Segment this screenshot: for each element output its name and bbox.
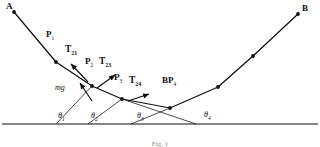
angle-label-theta3: θ3: [137, 112, 144, 122]
point-label-B: B: [302, 4, 308, 15]
point-dot-B: [296, 12, 300, 16]
figure-caption: Fig. 1: [0, 140, 320, 147]
point-label-P1: P1: [46, 30, 54, 41]
point-dot-P2: [90, 84, 94, 88]
vector-label-mg: mg: [55, 84, 65, 92]
angle-label-theta1: θ1: [58, 112, 65, 122]
point-label-P4: BP4: [162, 76, 176, 87]
vector-T24: [128, 94, 149, 101]
vector-label-T21: T21: [65, 45, 77, 56]
point-dot-P6: [251, 54, 255, 58]
point-dot-P5: [216, 85, 220, 89]
path-a-to-b: [14, 12, 298, 108]
point-dot-P4: [168, 106, 172, 110]
angle-label-theta4: θ4: [204, 111, 211, 121]
point-label-P2: P2: [85, 57, 93, 68]
vector-label-T24: T24: [129, 76, 141, 87]
figure-canvas: A P1 P2 P3 BP4 B T21 T23 T24 mg θ1 θ2 θ3…: [0, 0, 320, 147]
angle-ray-theta4: [122, 99, 196, 124]
angle-label-theta2: θ2: [91, 112, 98, 122]
figure-svg: [0, 0, 320, 147]
point-dot-P1: [54, 60, 58, 64]
point-label-P3: P3: [114, 73, 122, 84]
vector-T23: [97, 75, 115, 88]
vector-label-T23: T23: [99, 57, 111, 68]
point-label-A: A: [6, 2, 13, 13]
point-dot-P3: [120, 97, 124, 101]
